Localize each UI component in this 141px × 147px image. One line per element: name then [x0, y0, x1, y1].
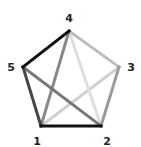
edge-3-1: [41, 67, 119, 126]
edge-4-1: [41, 31, 69, 126]
vertex-label-5: 5: [7, 62, 15, 73]
vertex-label-3: 3: [127, 62, 135, 73]
edge-3-2: [101, 67, 119, 126]
edge-4-2: [69, 31, 101, 126]
vertex-label-1: 1: [33, 136, 41, 147]
edge-4-5: [23, 31, 69, 67]
vertex-label-4: 4: [65, 13, 73, 24]
vertex-label-2: 2: [103, 136, 111, 147]
edge-5-2: [23, 67, 101, 126]
edge-1-5: [23, 67, 41, 126]
